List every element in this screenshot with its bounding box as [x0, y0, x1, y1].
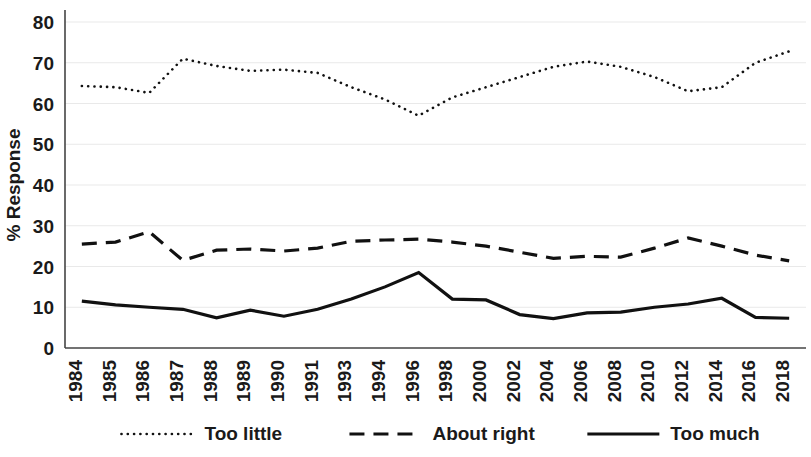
y-axis-title: % Response [3, 129, 24, 242]
x-tick-label: 1991 [301, 360, 322, 403]
y-tick-label: 80 [33, 12, 54, 33]
x-tick-label: 2002 [503, 360, 524, 402]
y-tick-label: 30 [33, 216, 54, 237]
x-tick-label: 2016 [738, 360, 759, 402]
series-line-too-little [82, 51, 789, 115]
legend-label-too-much: Too much [670, 423, 759, 444]
x-tick-label: 2000 [469, 360, 490, 402]
y-tick-label: 10 [33, 297, 54, 318]
x-tick-label: 1984 [65, 360, 86, 403]
x-tick-label: 1998 [435, 360, 456, 402]
x-tick-label: 2014 [705, 360, 726, 403]
x-tick-label: 1988 [200, 360, 221, 402]
legend-label-about-right: About right [432, 423, 535, 444]
x-tick-label: 1990 [267, 360, 288, 402]
line-chart: 01020304050607080 1984198519861987198819… [0, 0, 811, 457]
x-tick-label: 2008 [604, 360, 625, 402]
x-tick-label: 1987 [166, 360, 187, 402]
x-tick-label: 1989 [233, 360, 254, 402]
x-tick-label: 1994 [368, 360, 389, 403]
y-axis-tick-labels: 01020304050607080 [33, 12, 54, 359]
x-tick-label: 2004 [536, 360, 557, 403]
y-tick-label: 20 [33, 257, 54, 278]
x-tick-label: 1986 [132, 360, 153, 402]
x-tick-label: 1985 [99, 360, 120, 403]
axes [65, 10, 806, 348]
chart-legend: Too littleAbout rightToo much [121, 423, 759, 444]
x-tick-label: 2006 [570, 360, 591, 402]
y-tick-label: 40 [33, 175, 54, 196]
legend-label-too-little: Too little [204, 423, 282, 444]
x-tick-label: 1993 [334, 360, 355, 402]
y-tick-label: 0 [43, 338, 54, 359]
y-tick-label: 70 [33, 53, 54, 74]
y-tick-label: 50 [33, 134, 54, 155]
x-tick-label: 2010 [637, 360, 658, 402]
chart-canvas: 01020304050607080 1984198519861987198819… [0, 0, 811, 457]
series-line-about-right [82, 232, 789, 261]
x-axis-tick-labels: 1984198519861987198819891990199119931994… [65, 360, 793, 403]
x-tick-label: 2012 [671, 360, 692, 402]
x-tick-label: 2018 [772, 360, 793, 402]
x-tick-label: 1996 [402, 360, 423, 402]
series-line-too-much [82, 273, 789, 319]
y-tick-label: 60 [33, 94, 54, 115]
